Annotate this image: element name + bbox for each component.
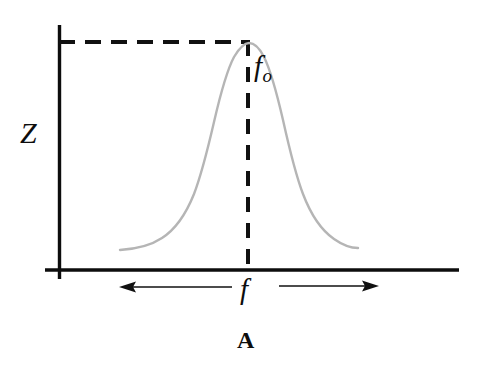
resonance-curve-figure: Z fo f A (0, 0, 477, 371)
below-resonance-arrow (119, 282, 232, 293)
y-axis-label: Z (20, 118, 37, 148)
resonant-frequency-peak-label: fo (254, 52, 272, 85)
figure-canvas (0, 0, 477, 371)
panel-label: A (237, 328, 254, 352)
x-axis-label: f (240, 275, 248, 304)
resonance-curve (120, 43, 358, 250)
peak-label-subscript: o (263, 65, 273, 86)
above-resonance-arrow (279, 281, 379, 292)
peak-label-base: f (254, 50, 262, 82)
